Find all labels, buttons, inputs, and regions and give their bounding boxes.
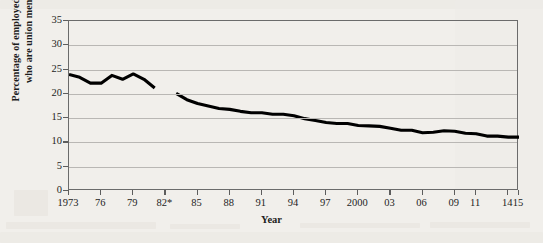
x-tick-mark-82* [164, 190, 165, 195]
x-tick-label-97: 97 [320, 197, 331, 208]
x-tick-mark-09 [454, 190, 455, 195]
x-tick-label-85: 85 [191, 197, 202, 208]
x-tick-label-09: 09 [448, 197, 459, 208]
x-tick-mark-97 [325, 190, 326, 195]
y-tick-label-0: 0 [36, 185, 62, 195]
y-axis-title-line-2: who are union members [22, 0, 35, 117]
x-tick-mark-85 [197, 190, 198, 195]
x-tick-mark-03 [389, 190, 390, 195]
x-tick-label-11: 11 [470, 197, 480, 208]
scan-artifact [0, 232, 543, 243]
y-tick-label-25: 25 [36, 64, 62, 74]
x-tick-label-91: 91 [256, 197, 267, 208]
gridline-25 [69, 70, 517, 71]
y-tick-label-10: 10 [36, 136, 62, 146]
y-tick-label-5: 5 [36, 161, 62, 171]
y-tick-label-30: 30 [36, 39, 62, 49]
x-tick-label-15: 15 [513, 197, 524, 208]
gridline-10 [69, 142, 517, 143]
x-tick-mark-76 [100, 190, 101, 195]
x-tick-label-82*: 82* [157, 197, 173, 208]
x-tick-label-03: 03 [384, 197, 395, 208]
gridline-30 [69, 45, 517, 46]
x-tick-mark-1973 [68, 190, 69, 195]
y-axis-title: Percentage of employed workers who are u… [10, 0, 35, 117]
series-line-2 [176, 93, 519, 137]
x-tick-label-88: 88 [223, 197, 234, 208]
y-tick-label-35: 35 [36, 15, 62, 25]
series-line-1 [69, 74, 155, 88]
x-tick-mark-14 [507, 190, 508, 195]
x-axis-title: Year [0, 214, 543, 225]
chart-figure: Percentage of employed workers who are u… [0, 0, 543, 243]
gridline-15 [69, 118, 517, 119]
y-tick-label-20: 20 [36, 88, 62, 98]
x-tick-label-2000: 2000 [347, 197, 368, 208]
x-tick-mark-88 [229, 190, 230, 195]
x-tick-mark-15 [518, 190, 519, 195]
gridline-20 [69, 94, 517, 95]
data-lines [69, 21, 519, 191]
x-tick-label-94: 94 [288, 197, 299, 208]
x-tick-mark-79 [132, 190, 133, 195]
x-tick-label-76: 76 [95, 197, 106, 208]
x-tick-label-14: 14 [502, 197, 513, 208]
x-tick-label-06: 06 [416, 197, 427, 208]
y-tick-label-15: 15 [36, 112, 62, 122]
x-tick-mark-91 [261, 190, 262, 195]
y-axis-title-line-1: Percentage of employed workers [10, 0, 23, 117]
gridline-5 [69, 167, 517, 168]
x-tick-mark-94 [293, 190, 294, 195]
x-tick-mark-2000 [357, 190, 358, 195]
plot-area [68, 20, 518, 190]
x-tick-mark-11 [475, 190, 476, 195]
x-tick-label-1973: 1973 [58, 197, 79, 208]
x-tick-mark-06 [422, 190, 423, 195]
x-tick-label-79: 79 [127, 197, 138, 208]
